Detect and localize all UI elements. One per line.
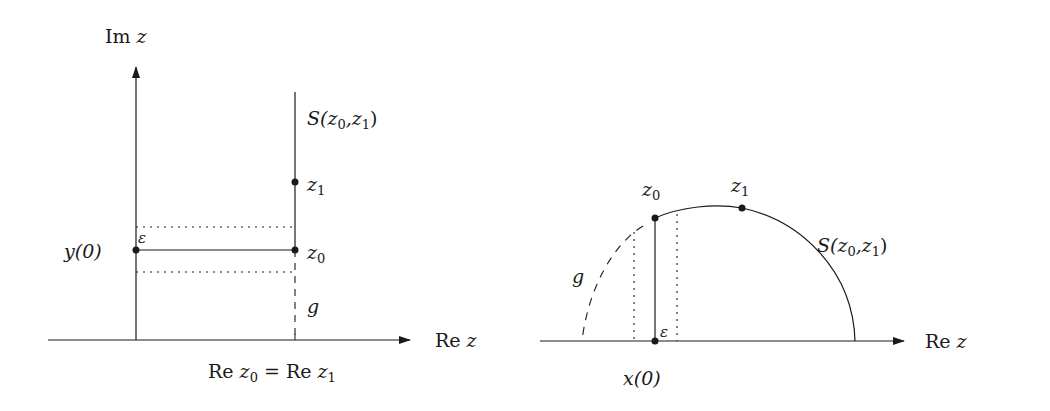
right-figure: Re z S(z0,z1) z0 z1 x(0) ε g (540, 174, 968, 389)
right-point-z0 (652, 215, 659, 222)
diagram-canvas: Im z Re z S(z0,z1) z1 z0 y(0) ε g Re z0 … (0, 0, 1050, 411)
left-bottom-label: Re z0 = Re z1 (208, 360, 336, 386)
left-epsilon-label: ε (138, 229, 146, 247)
right-z0-label: z0 (641, 178, 660, 203)
right-z1-label: z1 (730, 174, 749, 199)
right-x0-label: x(0) (623, 367, 661, 389)
left-im-axis-label: Im z (105, 25, 148, 47)
right-epsilon-label: ε (660, 323, 668, 341)
left-z0-label: z0 (306, 241, 325, 266)
left-point-z0 (292, 247, 299, 254)
left-g-label: g (307, 295, 319, 317)
left-re-axis-label: Re z (435, 329, 478, 351)
left-point-y0 (133, 247, 140, 254)
left-curve-label: S(z0,z1) (307, 107, 378, 132)
left-figure: Im z Re z S(z0,z1) z1 z0 y(0) ε g Re z0 … (48, 25, 478, 386)
right-point-z1 (739, 205, 746, 212)
right-point-x0 (652, 338, 659, 345)
left-point-z1 (292, 179, 299, 186)
right-g-label: g (572, 265, 584, 287)
left-y0-label: y(0) (63, 240, 102, 262)
left-z1-label: z1 (306, 173, 325, 198)
right-re-axis-label: Re z (925, 330, 968, 352)
right-curve-label: S(z0,z1) (817, 234, 888, 259)
right-arc-s (655, 206, 855, 341)
